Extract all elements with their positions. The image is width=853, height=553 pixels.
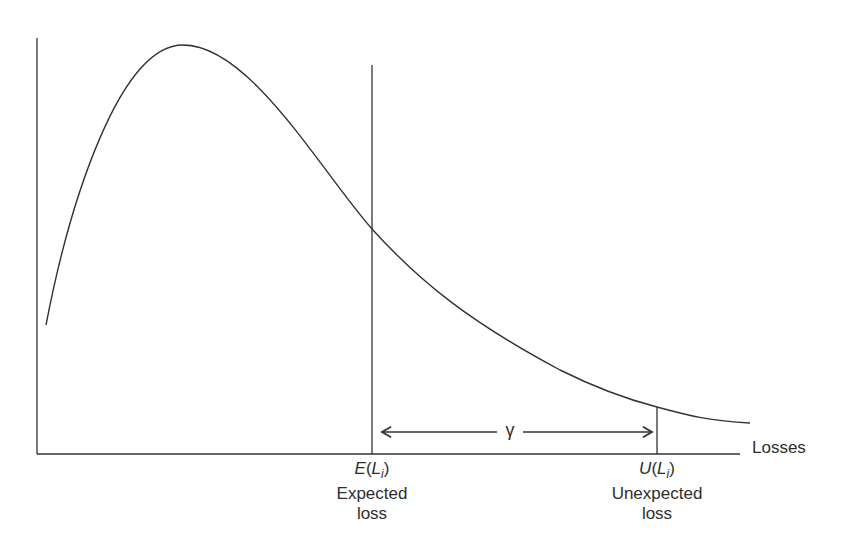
expected-loss-text-2: loss xyxy=(322,504,422,524)
unexpected-loss-text-1: Unexpected xyxy=(597,484,717,504)
loss-density-curve xyxy=(46,45,750,423)
expected-loss-text-1: Expected xyxy=(322,484,422,504)
expected-loss-symbol: E(Li) xyxy=(322,459,422,484)
x-axis-label: Losses xyxy=(752,438,806,458)
expected-loss-label: E(Li) Expected loss xyxy=(322,459,422,524)
unexpected-loss-label: U(Li) Unexpected loss xyxy=(597,459,717,524)
gamma-label: γ xyxy=(500,420,520,440)
unexpected-loss-text-2: loss xyxy=(597,504,717,524)
loss-distribution-diagram xyxy=(0,0,853,553)
unexpected-loss-symbol: U(Li) xyxy=(597,459,717,484)
